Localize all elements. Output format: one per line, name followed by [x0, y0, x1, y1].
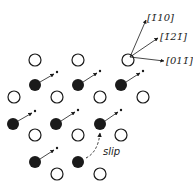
open-atom — [115, 129, 127, 141]
filled-atom — [115, 79, 127, 91]
open-atom — [137, 91, 149, 103]
filled-atom — [29, 156, 41, 168]
target-site-dot — [56, 147, 58, 149]
direction-label: [1̄10] — [147, 12, 174, 23]
open-atom — [29, 129, 41, 141]
direction-vectors: [1̄10][1̄21̄][011̄] — [130, 12, 193, 66]
displacement-arrow — [126, 73, 140, 82]
target-site-dot — [142, 70, 144, 72]
open-atom — [72, 54, 84, 66]
open-atom — [8, 91, 20, 103]
displacement-arrow — [40, 74, 54, 82]
filled-atom — [50, 118, 62, 130]
open-atom — [72, 129, 84, 141]
filled-atom — [29, 79, 41, 91]
open-atom — [94, 91, 106, 103]
slip-dashed-arrow — [86, 133, 100, 158]
direction-vector — [130, 57, 164, 61]
crystal-slip-diagram: [1̄10][1̄21̄][011̄] slip — [0, 0, 193, 184]
target-site-dot — [120, 109, 122, 111]
direction-label: [011̄] — [166, 55, 193, 66]
filled-atoms — [7, 70, 144, 168]
filled-atom — [94, 118, 106, 130]
direction-label: [1̄21̄] — [160, 31, 187, 42]
displacement-arrow — [61, 112, 75, 121]
open-atom — [94, 168, 106, 180]
displacement-arrow — [40, 150, 54, 159]
target-site-dot — [56, 71, 58, 73]
open-atom — [51, 168, 63, 180]
open-atom — [29, 54, 41, 66]
slip-label: slip — [103, 146, 120, 157]
target-site-dot — [99, 70, 101, 72]
displacement-arrow — [105, 112, 118, 121]
displacement-arrow — [83, 73, 97, 82]
open-atom — [51, 91, 63, 103]
filled-atom — [72, 156, 84, 168]
target-site-dot — [77, 109, 79, 111]
filled-atom — [72, 79, 84, 91]
filled-atom — [7, 118, 19, 130]
displacement-arrow — [18, 113, 32, 121]
target-site-dot — [34, 110, 36, 112]
